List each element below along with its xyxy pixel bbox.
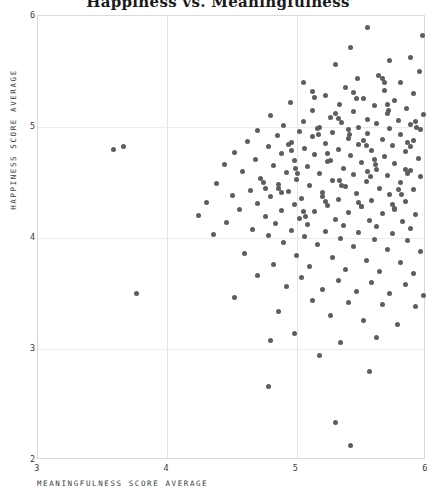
data-point bbox=[365, 25, 370, 30]
data-point bbox=[279, 208, 284, 213]
data-point bbox=[211, 232, 216, 237]
data-point bbox=[351, 90, 356, 95]
data-point bbox=[361, 318, 366, 323]
data-point bbox=[359, 160, 364, 165]
data-point bbox=[405, 238, 410, 243]
data-point bbox=[380, 211, 385, 216]
data-point bbox=[316, 132, 321, 137]
y-tick-label: 4 bbox=[30, 232, 36, 242]
data-point bbox=[418, 174, 423, 179]
chart-title: Happiness vs. Meaningfulness bbox=[0, 0, 436, 11]
data-point bbox=[250, 227, 255, 232]
data-point bbox=[295, 171, 300, 176]
data-point bbox=[408, 55, 413, 60]
gridline-horizontal bbox=[38, 127, 424, 128]
data-point bbox=[325, 203, 330, 208]
data-point bbox=[413, 119, 418, 124]
data-point bbox=[411, 138, 416, 143]
data-point bbox=[323, 229, 328, 234]
data-point bbox=[343, 85, 348, 90]
data-point bbox=[268, 194, 273, 199]
data-point bbox=[417, 69, 422, 74]
data-point bbox=[242, 251, 247, 256]
data-point bbox=[284, 284, 289, 289]
data-point bbox=[273, 221, 278, 226]
data-point bbox=[328, 313, 333, 318]
gridline-horizontal bbox=[38, 238, 424, 239]
data-point bbox=[421, 293, 426, 298]
y-axis-label: HAPPINESS SCORE AVERAGE bbox=[9, 65, 18, 215]
data-point bbox=[288, 100, 293, 105]
data-point bbox=[323, 199, 328, 204]
data-point bbox=[346, 127, 351, 132]
data-point bbox=[286, 142, 291, 147]
data-point bbox=[330, 178, 335, 183]
data-point bbox=[286, 189, 291, 194]
data-point bbox=[421, 112, 426, 117]
data-point bbox=[403, 282, 408, 287]
data-point bbox=[348, 153, 353, 158]
y-tick-label: 6 bbox=[30, 10, 36, 20]
x-axis-label: MEANINGFULNESS SCORE AVERAGE bbox=[37, 479, 208, 488]
data-point bbox=[307, 264, 312, 269]
data-point bbox=[392, 207, 397, 212]
data-point bbox=[364, 258, 369, 263]
data-point bbox=[354, 191, 359, 196]
data-point bbox=[380, 302, 385, 307]
data-point bbox=[336, 278, 341, 283]
data-point bbox=[354, 96, 359, 101]
data-point bbox=[297, 216, 302, 221]
data-point bbox=[356, 230, 361, 235]
data-point bbox=[263, 186, 268, 191]
data-point bbox=[305, 164, 310, 169]
data-point bbox=[403, 149, 408, 154]
data-point bbox=[328, 158, 333, 163]
data-point bbox=[336, 197, 341, 202]
data-point bbox=[408, 226, 413, 231]
data-point bbox=[369, 198, 374, 203]
data-point bbox=[399, 192, 404, 197]
data-point bbox=[237, 207, 242, 212]
data-point bbox=[266, 384, 271, 389]
data-point bbox=[369, 148, 374, 153]
data-point bbox=[382, 80, 387, 85]
data-point bbox=[301, 119, 306, 124]
data-point bbox=[333, 62, 338, 67]
data-point bbox=[416, 156, 421, 161]
data-point bbox=[222, 162, 227, 167]
data-point bbox=[271, 163, 276, 168]
data-point bbox=[292, 331, 297, 336]
data-point bbox=[268, 338, 273, 343]
data-point bbox=[382, 88, 387, 93]
data-point bbox=[392, 98, 397, 103]
data-point bbox=[365, 117, 370, 122]
data-point bbox=[396, 118, 401, 123]
data-point bbox=[323, 93, 328, 98]
data-point bbox=[372, 103, 377, 108]
data-point bbox=[411, 91, 416, 96]
x-tick-label: 6 bbox=[422, 463, 428, 473]
data-point bbox=[368, 174, 373, 179]
data-point bbox=[405, 171, 410, 176]
data-point bbox=[385, 173, 390, 178]
data-point bbox=[333, 217, 338, 222]
data-point bbox=[413, 304, 418, 309]
data-point bbox=[372, 237, 377, 242]
x-tick-label: 3 bbox=[34, 463, 40, 473]
x-tick-label: 4 bbox=[164, 463, 170, 473]
x-tick-label: 5 bbox=[293, 463, 299, 473]
data-point bbox=[281, 240, 286, 245]
data-point bbox=[255, 201, 260, 206]
data-point bbox=[382, 154, 387, 159]
data-point bbox=[312, 95, 317, 100]
data-point bbox=[354, 289, 359, 294]
data-point bbox=[365, 131, 370, 136]
y-tick-label: 5 bbox=[30, 121, 36, 131]
data-point bbox=[398, 180, 403, 185]
data-point bbox=[276, 309, 281, 314]
data-point bbox=[310, 89, 315, 94]
data-point bbox=[361, 96, 366, 101]
data-point bbox=[351, 172, 356, 177]
gridline-vertical bbox=[167, 16, 168, 458]
data-point bbox=[364, 143, 369, 148]
